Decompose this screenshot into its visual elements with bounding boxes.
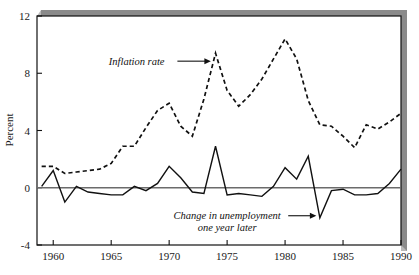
y-tick-label: 4 xyxy=(25,125,31,137)
x-tick-label: 1975 xyxy=(216,250,239,262)
y-tick-label: 0 xyxy=(25,182,31,194)
x-tick-label: 1960 xyxy=(42,250,65,262)
annotation-text: Change in unemployment xyxy=(173,210,281,221)
chart-figure: -404812 1960196519701975198019851990 Inf… xyxy=(0,0,419,275)
y-tick-label: -4 xyxy=(21,239,31,251)
x-tick-label: 1990 xyxy=(390,250,413,262)
y-tick-label: 12 xyxy=(19,10,30,22)
y-axis-title: Percent xyxy=(3,114,15,147)
x-tick-label: 1965 xyxy=(100,250,123,262)
inflation-unemployment-line-chart: -404812 1960196519701975198019851990 Inf… xyxy=(0,0,419,275)
y-tick-label: 8 xyxy=(25,67,31,79)
annotation-text: one year later xyxy=(198,222,258,233)
x-tick-label: 1980 xyxy=(274,250,297,262)
x-tick-label: 1985 xyxy=(332,250,355,262)
annotation-text: Inflation rate xyxy=(108,56,165,67)
x-tick-label: 1970 xyxy=(158,250,181,262)
